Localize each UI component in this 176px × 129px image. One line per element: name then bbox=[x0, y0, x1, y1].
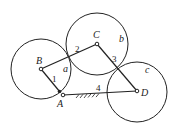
label-circle-c: c bbox=[145, 64, 150, 75]
label-B: B bbox=[36, 55, 42, 66]
link-3 bbox=[97, 44, 137, 91]
label-link-1: 1 bbox=[52, 74, 57, 84]
joint-A bbox=[61, 93, 65, 97]
label-circle-a: a bbox=[63, 63, 68, 74]
joint-B bbox=[39, 67, 43, 71]
joint-contact-a bbox=[58, 90, 62, 94]
label-link-2: 2 bbox=[75, 44, 80, 54]
linkage-diagram: A B C D a b c 1 2 3 4 bbox=[0, 0, 176, 129]
label-C: C bbox=[93, 29, 100, 40]
link-2 bbox=[41, 44, 97, 69]
label-A: A bbox=[56, 98, 64, 109]
link-1 bbox=[41, 69, 60, 92]
label-link-3: 3 bbox=[112, 54, 117, 64]
label-D: D bbox=[140, 87, 149, 98]
joint-D bbox=[135, 89, 139, 93]
joint-C bbox=[95, 42, 99, 46]
label-circle-b: b bbox=[119, 33, 124, 44]
label-link-4: 4 bbox=[96, 83, 101, 93]
